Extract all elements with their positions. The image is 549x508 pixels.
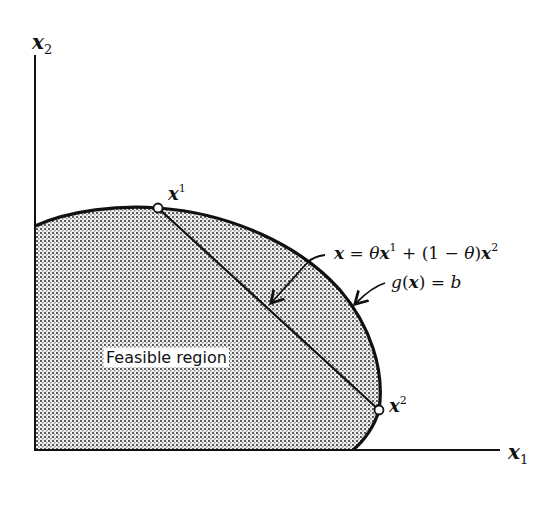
eq-lhs: x <box>334 243 344 263</box>
feasible-region <box>35 207 380 450</box>
point-x1-label: x1 <box>168 183 186 204</box>
x-axis-label: x1 <box>508 440 528 464</box>
eq-theta: θ <box>369 243 379 263</box>
point-x2-label: x2 <box>389 395 407 416</box>
point-x2-marker <box>375 406 384 415</box>
feasible-region-label: Feasible region <box>104 348 229 367</box>
x-axis-label-sub: 1 <box>520 452 528 467</box>
eq-x1-sup: 1 <box>390 241 397 254</box>
convex-combination-equation: x = θx1 + (1 − θ)x2 <box>334 243 498 263</box>
eq-x1: x <box>379 243 389 263</box>
eq-x2-sup: 2 <box>491 241 498 254</box>
eq-equals: = <box>344 243 369 263</box>
point-x1-sup: 1 <box>179 182 186 195</box>
boundary-open: ( <box>402 272 409 292</box>
y-axis-label-sub: 2 <box>44 42 52 57</box>
boundary-x: x <box>409 272 419 292</box>
y-axis-label: x2 <box>32 30 52 54</box>
boundary-label-arrow <box>356 283 385 303</box>
y-axis-label-var: x <box>32 30 44 54</box>
eq-x2: x <box>481 243 491 263</box>
eq-plus: + (1 − <box>397 243 465 263</box>
point-x2-var: x <box>389 395 400 416</box>
eq-theta2: θ <box>464 243 474 263</box>
boundary-equation: g(x) = b <box>391 272 461 292</box>
point-x2-sup: 2 <box>400 394 407 407</box>
boundary-b: b <box>450 272 461 292</box>
x-axis-label-var: x <box>508 440 520 464</box>
point-x1-marker <box>154 204 163 213</box>
boundary-g: g <box>391 272 402 292</box>
point-x1-var: x <box>168 183 179 204</box>
boundary-equals: = <box>425 272 450 292</box>
